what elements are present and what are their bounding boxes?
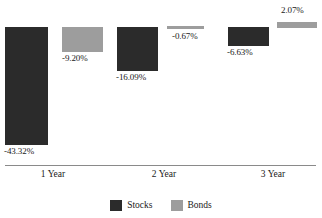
legend-label-stocks: Stocks <box>127 200 152 210</box>
x-axis-category-labels: 1 Year 2 Year 3 Year <box>0 169 322 185</box>
x-axis-label-3-year: 3 Year <box>243 169 303 179</box>
bar-bonds-1-year[interactable] <box>62 27 103 52</box>
bar-label-stocks-2-year: -16.09% <box>116 72 146 82</box>
chart-legend: Stocks Bonds <box>0 196 322 214</box>
bar-label-bonds-1-year: -9.20% <box>62 53 88 63</box>
legend-item-stocks[interactable]: Stocks <box>110 200 152 211</box>
bar-bonds-2-year[interactable] <box>167 26 204 29</box>
bar-bonds-3-year[interactable] <box>277 22 317 28</box>
legend-swatch-bonds-icon <box>171 200 183 211</box>
x-axis-label-2-year: 2 Year <box>134 169 194 179</box>
plot-area: -43.32% -9.20% -16.09% -0.67% -6.63% 2.0… <box>0 0 322 166</box>
legend-label-bonds: Bonds <box>188 200 212 210</box>
bar-chart: -43.32% -9.20% -16.09% -0.67% -6.63% 2.0… <box>0 0 322 218</box>
x-axis-line <box>5 165 316 166</box>
bar-stocks-2-year[interactable] <box>117 27 158 71</box>
bar-label-stocks-3-year: -6.63% <box>227 47 253 57</box>
bar-label-bonds-2-year: -0.67% <box>172 31 198 41</box>
legend-swatch-stocks-icon <box>110 200 122 211</box>
bar-stocks-3-year[interactable] <box>228 27 269 46</box>
bar-label-bonds-3-year: 2.07% <box>281 5 304 15</box>
x-axis-label-1-year: 1 Year <box>23 169 83 179</box>
legend-item-bonds[interactable]: Bonds <box>171 200 212 211</box>
bar-stocks-1-year[interactable] <box>5 27 48 145</box>
bar-label-stocks-1-year: -43.32% <box>4 146 34 156</box>
